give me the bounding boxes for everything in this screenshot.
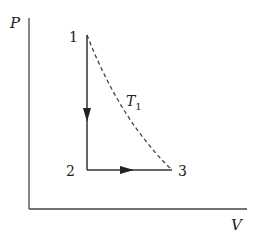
point-2-label: 2 bbox=[66, 163, 75, 179]
pv-diagram: P V 1 2 3 T1 bbox=[0, 0, 264, 242]
v-axis-label: V bbox=[231, 216, 244, 234]
pv-diagram-svg: P V 1 2 3 T1 bbox=[0, 0, 264, 242]
point-1-label: 1 bbox=[69, 29, 78, 45]
p-axis-label: P bbox=[9, 14, 21, 32]
arrow-down-icon bbox=[83, 108, 91, 122]
point-3-label: 3 bbox=[178, 163, 187, 179]
isotherm-label-subscript: 1 bbox=[135, 101, 141, 112]
arrow-right-icon bbox=[120, 166, 134, 174]
isotherm-label: T1 bbox=[126, 93, 142, 112]
